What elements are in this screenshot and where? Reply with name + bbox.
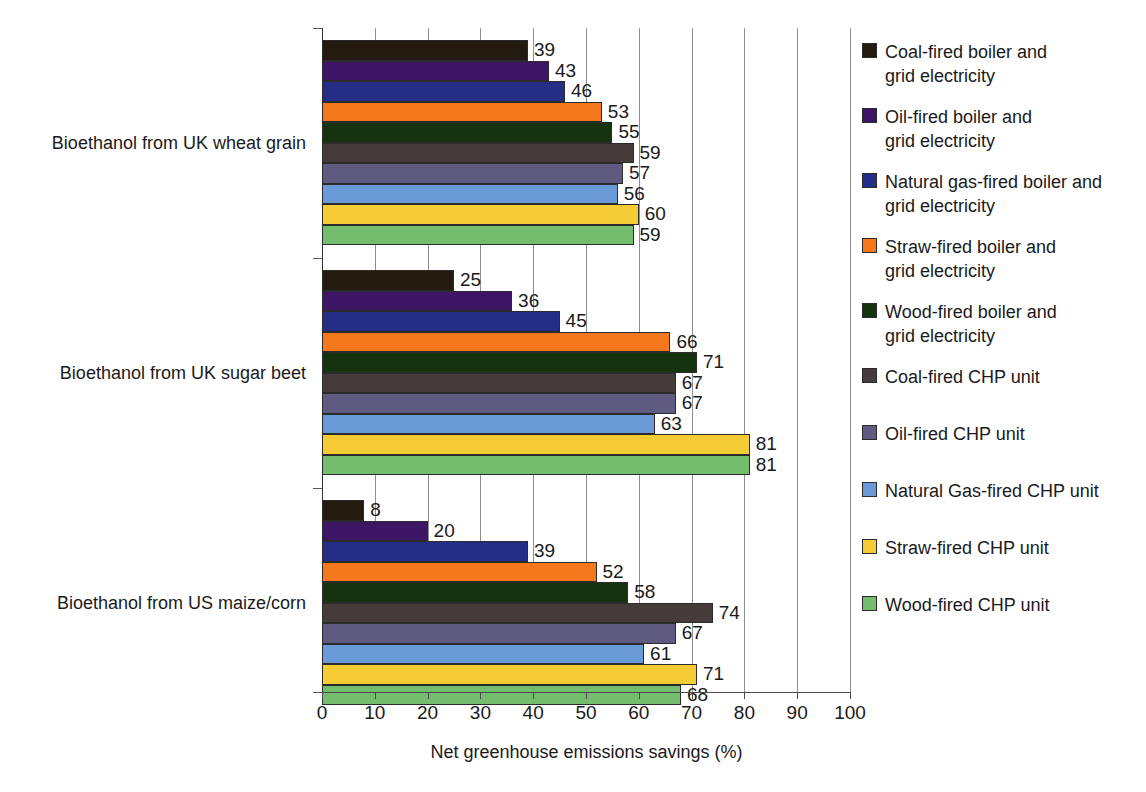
legend-label: Wood-fired boiler and grid electricity: [885, 300, 1057, 348]
bar[interactable]: [322, 521, 428, 542]
bar-value-label: 55: [612, 121, 639, 143]
bar-row: 81: [322, 434, 850, 455]
bar-value-label: 8: [364, 499, 381, 521]
legend-item[interactable]: Wood-fired boiler and grid electricity: [862, 300, 1057, 348]
bar-row: 20: [322, 521, 850, 542]
legend-swatch-icon: [862, 108, 877, 123]
x-axis-tick-50: [586, 692, 587, 699]
x-axis-tick-label: 70: [681, 702, 702, 724]
bar-value-label: 53: [602, 100, 629, 122]
bar[interactable]: [322, 143, 634, 164]
bar-value-label: 74: [713, 601, 740, 623]
x-axis-tick-label: 60: [628, 702, 649, 724]
bar-row: 67: [322, 623, 850, 644]
bar[interactable]: [322, 541, 528, 562]
bar[interactable]: [322, 102, 602, 123]
bar-value-label: 67: [676, 622, 703, 644]
x-axis-tick-label: 50: [575, 702, 596, 724]
legend-swatch-icon: [862, 368, 877, 383]
bar-row: 53: [322, 102, 850, 123]
x-axis-tick-label: 100: [834, 702, 866, 724]
bar-row: 56: [322, 184, 850, 205]
bar-row: 74: [322, 603, 850, 624]
bar[interactable]: [322, 311, 560, 332]
bar[interactable]: [322, 270, 454, 291]
legend-item[interactable]: Oil-fired CHP unit: [862, 422, 1025, 446]
bar-row: 57: [322, 163, 850, 184]
bar[interactable]: [322, 455, 750, 476]
bar[interactable]: [322, 291, 512, 312]
bar[interactable]: [322, 500, 364, 521]
y-axis-tick-0: [313, 28, 322, 29]
bar[interactable]: [322, 414, 655, 435]
bar[interactable]: [322, 562, 597, 583]
bar-row: 58: [322, 582, 850, 603]
bar[interactable]: [322, 373, 676, 394]
bar-value-label: 63: [655, 412, 682, 434]
bar-value-label: 56: [618, 182, 645, 204]
bar-row: 66: [322, 332, 850, 353]
legend-item[interactable]: Coal-fired boiler and grid electricity: [862, 40, 1047, 88]
legend-label: Oil-fired boiler and grid electricity: [885, 105, 1032, 153]
bar-row: 59: [322, 143, 850, 164]
bar[interactable]: [322, 184, 618, 205]
x-axis-tick-40: [533, 692, 534, 699]
x-axis-tick-label: 20: [417, 702, 438, 724]
category-label-maize: Bioethanol from US maize/corn: [57, 592, 306, 613]
legend-label: Straw-fired CHP unit: [885, 536, 1049, 560]
bar-row: 67: [322, 393, 850, 414]
x-axis-tick-label: 90: [787, 702, 808, 724]
legend-swatch-icon: [862, 482, 877, 497]
legend-swatch-icon: [862, 238, 877, 253]
bar-group-1: 25364566716767638181: [322, 270, 850, 475]
x-axis-tick-60: [639, 692, 640, 699]
legend-label: Natural gas-fired boiler and grid electr…: [885, 170, 1102, 218]
category-label-sugar-beet: Bioethanol from UK sugar beet: [60, 362, 306, 383]
bar[interactable]: [322, 434, 750, 455]
bar-row: 45: [322, 311, 850, 332]
legend-item[interactable]: Straw-fired boiler and grid electricity: [862, 235, 1056, 283]
x-axis-tick-20: [428, 692, 429, 699]
legend-item[interactable]: Wood-fired CHP unit: [862, 593, 1049, 617]
gridline-100: [850, 28, 851, 692]
bar-row: 8: [322, 500, 850, 521]
bar-row: 52: [322, 562, 850, 583]
bar[interactable]: [322, 40, 528, 61]
bar-value-label: 81: [750, 433, 777, 455]
bar-row: 25: [322, 270, 850, 291]
bar[interactable]: [322, 623, 676, 644]
legend-label: Straw-fired boiler and grid electricity: [885, 235, 1056, 283]
bar[interactable]: [322, 204, 639, 225]
bar-value-label: 25: [454, 269, 481, 291]
legend-swatch-icon: [862, 539, 877, 554]
bar-value-label: 58: [628, 581, 655, 603]
x-axis-tick-0: [322, 692, 323, 699]
legend-item[interactable]: Coal-fired CHP unit: [862, 365, 1040, 389]
bar[interactable]: [322, 644, 644, 665]
bar[interactable]: [322, 603, 713, 624]
bar[interactable]: [322, 122, 612, 143]
legend-item[interactable]: Oil-fired boiler and grid electricity: [862, 105, 1032, 153]
bar-group-0: 39434653555957566059: [322, 40, 850, 245]
bar-row: 81: [322, 455, 850, 476]
bar[interactable]: [322, 582, 628, 603]
x-axis-tick-100: [850, 692, 851, 699]
legend-label: Wood-fired CHP unit: [885, 593, 1049, 617]
bar[interactable]: [322, 225, 634, 246]
bar[interactable]: [322, 61, 549, 82]
bar[interactable]: [322, 81, 565, 102]
legend-item[interactable]: Natural Gas-fired CHP unit: [862, 479, 1099, 503]
bar[interactable]: [322, 393, 676, 414]
legend-item[interactable]: Natural gas-fired boiler and grid electr…: [862, 170, 1102, 218]
legend-item[interactable]: Straw-fired CHP unit: [862, 536, 1049, 560]
legend-label: Coal-fired CHP unit: [885, 365, 1040, 389]
bar-value-label: 81: [750, 453, 777, 475]
bar[interactable]: [322, 664, 697, 685]
bar[interactable]: [322, 352, 697, 373]
bar-value-label: 60: [639, 203, 666, 225]
bar[interactable]: [322, 163, 623, 184]
bar-row: 71: [322, 352, 850, 373]
legend-swatch-icon: [862, 173, 877, 188]
bar-row: 61: [322, 644, 850, 665]
bar[interactable]: [322, 332, 670, 353]
